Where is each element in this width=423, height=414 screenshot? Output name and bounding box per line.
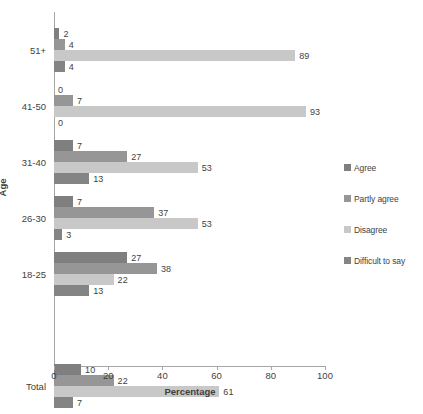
plot-area: 24894079307275313737533273822131022617 xyxy=(54,12,325,366)
legend-label: Disagree xyxy=(354,225,387,235)
legend-item[interactable]: Difficult to say xyxy=(344,245,422,276)
x-tick-label: 80 xyxy=(266,370,277,381)
x-tick-label: 60 xyxy=(211,370,222,381)
y-tick-label: 41-50 xyxy=(0,101,46,112)
x-tick-label: 100 xyxy=(317,370,333,381)
legend-label: Difficult to say xyxy=(354,256,405,266)
bar[interactable] xyxy=(54,28,59,39)
bar-group: 07930 xyxy=(54,84,325,128)
bar[interactable] xyxy=(54,218,198,229)
bar[interactable] xyxy=(54,274,114,285)
bar-value-label: 22 xyxy=(118,375,128,385)
legend-label: Agree xyxy=(354,163,376,173)
x-tick-label: 20 xyxy=(103,370,114,381)
bar-value-label: 10 xyxy=(85,364,95,374)
bar-value-label: 7 xyxy=(77,140,82,150)
bar-value-label: 13 xyxy=(93,173,103,183)
bar[interactable] xyxy=(54,285,89,296)
bar[interactable] xyxy=(54,263,157,274)
legend-item[interactable]: Disagree xyxy=(344,214,422,245)
x-tick-label: 0 xyxy=(51,370,56,381)
bar-value-label: 7 xyxy=(77,196,82,206)
legend-swatch-icon xyxy=(344,257,351,264)
bar-chart: 24894079307275313737533273822131022617 5… xyxy=(0,0,423,414)
bar[interactable] xyxy=(54,39,65,50)
bar[interactable] xyxy=(54,151,127,162)
bar-value-label: 89 xyxy=(299,50,309,60)
legend-swatch-icon xyxy=(344,195,351,202)
y-tick-label: 18-25 xyxy=(0,269,46,280)
bar[interactable] xyxy=(54,196,73,207)
bar-value-label: 2 xyxy=(63,28,68,38)
bar-value-label: 4 xyxy=(69,39,74,49)
bar[interactable] xyxy=(54,61,65,72)
bar[interactable] xyxy=(54,229,62,240)
bar-group: 7275313 xyxy=(54,140,325,184)
y-axis-title: Age xyxy=(0,179,8,197)
x-tick-label: 40 xyxy=(157,370,168,381)
bar[interactable] xyxy=(54,106,306,117)
bar-group: 27382213 xyxy=(54,252,325,296)
bar[interactable] xyxy=(54,162,198,173)
bar-value-label: 4 xyxy=(69,61,74,71)
bar-value-label: 37 xyxy=(158,207,168,217)
bar-value-label: 53 xyxy=(202,162,212,172)
bar[interactable] xyxy=(54,252,127,263)
bar[interactable] xyxy=(54,140,73,151)
bar-value-label: 0 xyxy=(58,84,63,94)
bar[interactable] xyxy=(54,397,73,408)
y-tick-label: 26-30 xyxy=(0,213,46,224)
legend-label: Partly agree xyxy=(354,194,399,204)
bar[interactable] xyxy=(54,364,81,375)
legend-swatch-icon xyxy=(344,226,351,233)
bar-value-label: 27 xyxy=(131,252,141,262)
bar-value-label: 3 xyxy=(66,229,71,239)
y-tick-label: Total xyxy=(0,381,46,392)
x-axis-title: Percentage xyxy=(54,386,326,397)
bar-value-label: 27 xyxy=(131,151,141,161)
y-tick-label: 51+ xyxy=(0,45,46,56)
bar[interactable] xyxy=(54,173,89,184)
bar[interactable] xyxy=(54,95,73,106)
bar-value-label: 22 xyxy=(118,274,128,284)
bar-group: 737533 xyxy=(54,196,325,240)
bar-value-label: 93 xyxy=(310,106,320,116)
bar-value-label: 53 xyxy=(202,218,212,228)
bar-value-label: 7 xyxy=(77,397,82,407)
bar[interactable] xyxy=(54,207,154,218)
bar-value-label: 13 xyxy=(93,285,103,295)
bar-group: 24894 xyxy=(54,28,325,72)
legend-swatch-icon xyxy=(344,164,351,171)
legend-item[interactable]: Agree xyxy=(344,152,422,183)
bar-value-label: 38 xyxy=(161,263,171,273)
bar-value-label: 0 xyxy=(58,117,63,127)
bar-value-label: 7 xyxy=(77,95,82,105)
y-tick-label: 31-40 xyxy=(0,157,46,168)
legend-item[interactable]: Partly agree xyxy=(344,183,422,214)
legend: AgreePartly agreeDisagreeDifficult to sa… xyxy=(344,152,422,276)
bar[interactable] xyxy=(54,50,295,61)
